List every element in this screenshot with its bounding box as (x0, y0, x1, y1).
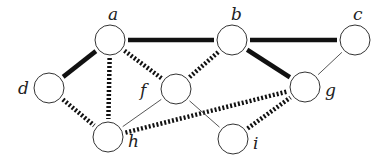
node-f: f (138, 74, 191, 104)
node-label: a (108, 4, 118, 24)
node-circle (161, 74, 191, 104)
node-circle (95, 25, 125, 55)
edge-h-g (125, 91, 287, 132)
node-label: c (353, 4, 363, 24)
node-d: d (18, 73, 64, 103)
nodes-layer: abcdfghi (18, 4, 370, 154)
node-circle (340, 25, 370, 55)
node-label: b (231, 4, 242, 24)
node-c: c (340, 4, 370, 55)
edge-a-d (63, 51, 96, 77)
node-circle (217, 25, 247, 55)
edge-f-i (190, 101, 220, 127)
edge-d-h (63, 100, 94, 126)
node-label: g (325, 80, 336, 100)
edge-f-b (190, 52, 219, 77)
node-circle (218, 124, 248, 154)
node-label: i (253, 133, 258, 153)
edge-a-f (124, 51, 161, 79)
node-label: d (18, 78, 29, 98)
node-label: h (128, 131, 139, 151)
edge-c-g (318, 52, 342, 74)
node-circle (290, 72, 320, 102)
node-h: h (93, 122, 139, 152)
node-circle (93, 122, 123, 152)
graph-diagram: abcdfghi (0, 0, 387, 160)
node-b: b (217, 4, 247, 55)
node-g: g (290, 72, 336, 102)
edge-a-h (108, 58, 109, 119)
node-label: f (138, 80, 149, 100)
node-circle (34, 73, 64, 103)
node-a: a (95, 4, 125, 55)
edge-f-h (123, 99, 162, 126)
edge-b-g (247, 50, 290, 78)
node-i: i (218, 124, 258, 154)
